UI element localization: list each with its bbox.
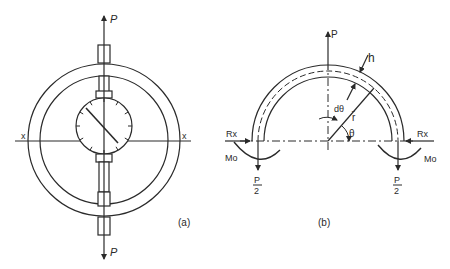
fig-a-axis-right-label: x: [182, 131, 187, 141]
moment-left-arc: [234, 142, 280, 159]
fig-b-load-top-label: P: [331, 29, 338, 40]
fig-b-moment-right-label: Mo: [424, 154, 437, 164]
half-load-left-denominator: 2: [254, 186, 259, 196]
fig-b-moment-left-label: Mo: [225, 153, 238, 163]
half-load-right-denominator: 2: [394, 186, 399, 196]
figure-b-half-ring-free-body: [225, 32, 434, 170]
fig-a-load-top-label: P: [110, 13, 118, 25]
diagram-canvas: P P x x (a) P h dθ r̄ θ Rx: [0, 0, 450, 269]
half-load-right-numerator: P: [394, 175, 400, 185]
theta-arc-arrow: [342, 126, 349, 141]
fig-a-load-bottom-label: P: [110, 246, 118, 258]
fig-a-caption: (a): [178, 217, 190, 228]
thickness-arrow-inner: [347, 84, 355, 100]
moment-right-arc: [378, 145, 421, 159]
fig-b-d-theta-label: dθ: [334, 104, 344, 114]
thickness-arrow-outer: [360, 55, 368, 72]
figure-a-proving-ring: [15, 16, 191, 259]
fig-b-reaction-left-label: Rx: [226, 129, 237, 139]
fig-a-axis-left-label: x: [21, 131, 26, 141]
fig-b-theta-label: θ: [349, 128, 355, 139]
fig-b-caption: (b): [318, 217, 330, 228]
fig-b-half-load-left-label: P 2: [253, 175, 262, 196]
fig-b-radius-label: r̄: [351, 111, 356, 123]
fig-b-thickness-label: h: [368, 51, 375, 65]
d-theta-arc-arrow: [319, 117, 337, 120]
fig-b-reaction-right-label: Rx: [417, 129, 428, 139]
fig-b-half-load-right-label: P 2: [393, 175, 402, 196]
half-load-left-numerator: P: [254, 175, 260, 185]
